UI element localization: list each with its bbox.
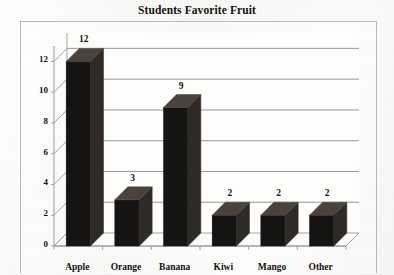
depth-connector [54,171,67,184]
x-axis-category-label: Kiwi [195,262,251,272]
y-axis-tick-label: 6 [26,147,48,157]
bar-value-label: 9 [168,81,194,91]
bar-front-face [261,215,285,246]
bar-side-face [91,48,104,246]
depth-connector [54,79,67,92]
bar-group [115,187,152,246]
plot-frame [20,21,377,273]
depth-connector [54,141,67,154]
y-axis-tick-label: 10 [26,85,48,95]
bar-side-face [188,95,201,246]
bar-front-face [212,215,236,246]
x-axis-category-label: Orange [98,262,154,272]
y-axis-tick-label: 0 [26,239,48,249]
y-axis-tick-label: 8 [26,116,48,126]
x-axis-category-label: Other [293,262,349,272]
plot-canvas [21,22,376,272]
back-wall [67,33,359,233]
chart-title: Students Favorite Fruit [0,4,394,16]
y-axis-tick-label: 4 [26,177,48,187]
bar-value-label: 2 [314,188,340,198]
bar-value-label: 2 [217,188,243,198]
y-axis-tick-label: 2 [26,208,48,218]
depth-connector [54,110,67,123]
x-axis-category-label: Mango [244,262,300,272]
bar-value-label: 2 [266,188,292,198]
bar-front-face [310,215,334,246]
x-axis-category-label: Apple [49,262,105,272]
bar-group [66,48,103,246]
bar-front-face [115,200,139,246]
x-axis-category-label: Banana [147,262,203,272]
bar-front-face [164,108,188,246]
bar-group [164,95,201,246]
depth-connector [54,48,67,61]
bar-value-label: 12 [71,34,97,44]
depth-connector [54,202,67,215]
y-axis-tick-label: 12 [26,54,48,64]
bar-front-face [66,61,90,246]
bar-value-label: 3 [120,173,146,183]
chart-page: Students Favorite Fruit 12Apple3Orange9B… [0,0,394,275]
